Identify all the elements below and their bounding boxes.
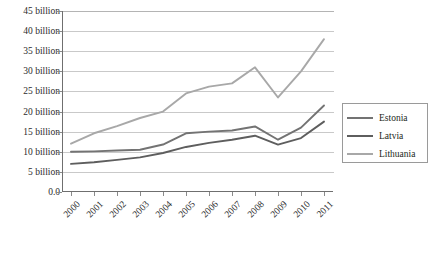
x-axis-tick-label: 2010 bbox=[285, 199, 312, 226]
x-axis-tick bbox=[209, 192, 210, 196]
x-axis-tick bbox=[163, 192, 164, 196]
y-axis-tick-label: 45 billion bbox=[2, 6, 60, 16]
legend-swatch-estonia bbox=[347, 117, 373, 119]
x-axis-tick bbox=[232, 192, 233, 196]
y-axis-tick bbox=[56, 192, 62, 193]
y-axis-label-group: 0.05 billion10 billion15 billion20 billi… bbox=[0, 0, 60, 258]
y-axis-tick-label: 5 billion bbox=[2, 167, 60, 177]
y-axis-tick-label: 35 billion bbox=[2, 46, 60, 56]
x-axis-tick bbox=[94, 192, 95, 196]
x-axis-tick-label: 2011 bbox=[308, 199, 335, 226]
x-axis-tick-label: 2003 bbox=[124, 199, 151, 226]
legend-item-lithuania[interactable]: Lithuania bbox=[347, 145, 424, 163]
chart-legend: EstoniaLatviaLithuania bbox=[342, 103, 428, 163]
x-axis-tick-label: 2008 bbox=[239, 199, 266, 226]
legend-label: Estonia bbox=[379, 113, 408, 123]
x-axis-tick-label: 2002 bbox=[101, 199, 128, 226]
legend-label: Latvia bbox=[379, 131, 403, 141]
x-axis-tick-label: 2005 bbox=[170, 199, 197, 226]
x-axis-tick bbox=[301, 192, 302, 196]
series-group bbox=[62, 11, 333, 192]
series-line-lithuania bbox=[71, 39, 324, 144]
x-axis-tick bbox=[324, 192, 325, 196]
x-axis-tick bbox=[255, 192, 256, 196]
x-axis-tick bbox=[117, 192, 118, 196]
x-axis-tick bbox=[140, 192, 141, 196]
x-axis-tick-label: 2007 bbox=[216, 199, 243, 226]
x-axis-tick bbox=[186, 192, 187, 196]
x-axis-tick bbox=[71, 192, 72, 196]
legend-label: Lithuania bbox=[379, 149, 415, 159]
line-chart-figure: 0.05 billion10 billion15 billion20 billi… bbox=[0, 0, 431, 258]
y-axis-tick-label: 40 billion bbox=[2, 26, 60, 36]
y-axis-tick-label: 15 billion bbox=[2, 127, 60, 137]
legend-item-latvia[interactable]: Latvia bbox=[347, 127, 424, 145]
y-axis-tick-label: 25 billion bbox=[2, 86, 60, 96]
x-axis-tick-label: 2001 bbox=[78, 199, 105, 226]
y-axis-tick-label: 0.0 bbox=[2, 187, 60, 197]
x-axis-tick-label: 2009 bbox=[262, 199, 289, 226]
y-axis-tick-label: 20 billion bbox=[2, 107, 60, 117]
legend-item-estonia[interactable]: Estonia bbox=[347, 109, 424, 127]
x-axis-tick-label: 2004 bbox=[147, 199, 174, 226]
x-axis-tick bbox=[278, 192, 279, 196]
legend-swatch-latvia bbox=[347, 135, 373, 137]
y-axis-tick-label: 30 billion bbox=[2, 66, 60, 76]
legend-swatch-lithuania bbox=[347, 153, 373, 155]
x-axis-tick-label: 2006 bbox=[193, 199, 220, 226]
y-axis-tick-label: 10 billion bbox=[2, 147, 60, 157]
